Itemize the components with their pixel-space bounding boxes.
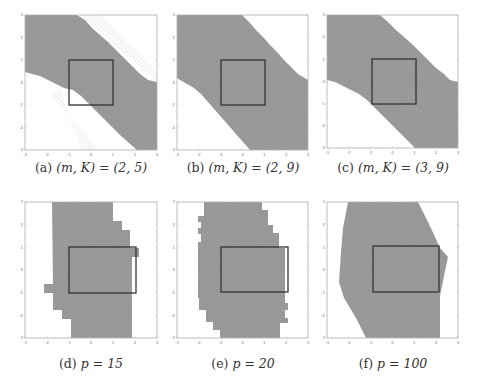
caption-expression: (m, K) = (2, 9) — [208, 160, 299, 175]
x-tick-label: 3 — [457, 150, 460, 155]
y-tick-label: 1 — [172, 245, 175, 250]
x-tick-label: -2 — [197, 152, 201, 157]
shaded-region — [327, 15, 458, 148]
x-tick-label: -2 — [45, 152, 49, 157]
subplot-caption-e: (e) p = 20 — [168, 356, 318, 371]
subplot-a: -3-2-101233210-1-2-3 — [19, 12, 159, 157]
x-tick-label: 2 — [285, 340, 288, 345]
subplot-d: -3-2-101233210-1-2-3 — [19, 199, 159, 345]
y-tick-label: -2 — [19, 313, 23, 318]
caption-label: (b) — [187, 160, 205, 175]
x-tick-label: 2 — [134, 340, 137, 345]
shaded-region — [25, 15, 157, 150]
caption-expression: p = 20 — [232, 356, 274, 371]
y-tick-label: 1 — [322, 245, 325, 250]
y-tick-label: -3 — [19, 335, 23, 340]
figure-canvas: -3-2-101233210-1-2-3-3-2-101233210-1-2-3… — [0, 0, 478, 386]
y-tick-label: 1 — [322, 57, 325, 62]
shaded-region — [198, 202, 288, 338]
x-tick-label: -1 — [219, 152, 223, 157]
y-tick-label: -1 — [321, 101, 325, 106]
caption-label: (f) — [359, 356, 373, 371]
x-tick-label: -3 — [23, 152, 27, 157]
x-tick-label: -2 — [197, 340, 201, 345]
y-tick-label: -2 — [19, 125, 23, 130]
x-tick-label: -2 — [347, 150, 351, 155]
subplot-caption-b: (b) (m, K) = (2, 9) — [168, 160, 318, 175]
y-tick-label: -3 — [171, 335, 175, 340]
y-tick-label: 1 — [20, 57, 23, 62]
x-tick-label: -3 — [175, 152, 179, 157]
x-tick-label: 2 — [435, 150, 438, 155]
x-tick-label: 0 — [90, 340, 93, 345]
subplot-b: -3-2-101233210-1-2-3 — [171, 12, 310, 157]
x-tick-label: -3 — [325, 340, 329, 345]
y-tick-label: 0 — [20, 267, 23, 272]
caption-label: (d) — [59, 356, 77, 371]
y-tick-label: -1 — [171, 102, 175, 107]
caption-label: (a) — [35, 160, 52, 175]
caption-label: (c) — [337, 160, 354, 175]
subplot-c: -3-2-101233210-1-2-3 — [321, 12, 460, 155]
x-tick-label: -1 — [369, 150, 373, 155]
x-tick-label: 1 — [413, 340, 416, 345]
y-tick-label: 3 — [172, 12, 175, 17]
x-tick-label: -2 — [347, 340, 351, 345]
y-tick-label: 3 — [20, 12, 23, 17]
y-tick-label: 1 — [20, 245, 23, 250]
y-tick-label: 0 — [322, 267, 325, 272]
caption-expression: p = 100 — [377, 356, 427, 371]
y-tick-label: -3 — [321, 335, 325, 340]
y-tick-label: -2 — [171, 125, 175, 130]
y-tick-label: -3 — [19, 147, 23, 152]
y-tick-label: 0 — [20, 80, 23, 85]
y-tick-label: 2 — [172, 222, 175, 227]
y-tick-label: 3 — [172, 199, 175, 204]
x-tick-label: 2 — [285, 152, 288, 157]
y-tick-label: 0 — [172, 267, 175, 272]
y-tick-label: -3 — [321, 145, 325, 150]
x-tick-label: 3 — [156, 340, 159, 345]
x-tick-label: 3 — [307, 340, 310, 345]
x-tick-label: -1 — [67, 152, 71, 157]
caption-expression: p = 15 — [81, 356, 123, 371]
y-tick-label: 2 — [20, 222, 23, 227]
y-tick-label: -1 — [171, 290, 175, 295]
subplot-caption-d: (d) p = 15 — [16, 356, 166, 371]
x-tick-label: 0 — [391, 150, 394, 155]
y-tick-label: 0 — [322, 79, 325, 84]
y-tick-label: -1 — [19, 102, 23, 107]
y-tick-label: 3 — [322, 199, 325, 204]
y-tick-label: 2 — [322, 34, 325, 39]
caption-expression: (m, K) = (2, 5) — [56, 160, 147, 175]
subplot-e: -3-2-101233210-1-2-3 — [171, 199, 310, 345]
y-tick-label: 2 — [172, 35, 175, 40]
x-tick-label: 0 — [241, 152, 244, 157]
shaded-region — [44, 202, 139, 338]
x-tick-label: 1 — [263, 340, 266, 345]
x-tick-label: -3 — [175, 340, 179, 345]
x-tick-label: 0 — [90, 152, 93, 157]
subplot-f: -3-2-101233210-1-2-3 — [321, 199, 460, 345]
x-tick-label: 3 — [457, 340, 460, 345]
x-tick-label: -1 — [369, 340, 373, 345]
x-tick-label: 3 — [307, 152, 310, 157]
y-tick-label: -3 — [171, 147, 175, 152]
caption-expression: (m, K) = (3, 9) — [358, 160, 449, 175]
shaded-region — [339, 202, 448, 338]
x-tick-label: -3 — [23, 340, 27, 345]
subplot-caption-a: (a) (m, K) = (2, 5) — [16, 160, 166, 175]
y-tick-label: -2 — [321, 123, 325, 128]
x-tick-label: 2 — [435, 340, 438, 345]
x-tick-label: 1 — [112, 152, 115, 157]
shaded-region — [177, 15, 308, 150]
y-tick-label: 1 — [172, 57, 175, 62]
y-tick-label: 3 — [20, 199, 23, 204]
subplot-caption-f: (f) p = 100 — [318, 356, 468, 371]
y-tick-label: 2 — [20, 35, 23, 40]
x-tick-label: 3 — [156, 152, 159, 157]
y-tick-label: 0 — [172, 80, 175, 85]
x-tick-label: -2 — [45, 340, 49, 345]
caption-label: (e) — [211, 356, 228, 371]
x-tick-label: 0 — [391, 340, 394, 345]
